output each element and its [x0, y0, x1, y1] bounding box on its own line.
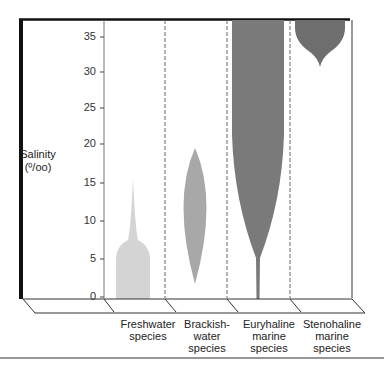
tick-0: 0: [72, 290, 96, 302]
category-euryhaline: Euryhalinemarinespecies: [238, 318, 300, 354]
category-brackish: Brackish-waterspecies: [176, 318, 238, 354]
y-ticks: [100, 37, 104, 297]
salinity-chart: [0, 0, 384, 369]
tick-10: 10: [72, 214, 96, 226]
tick-35: 35: [72, 30, 96, 42]
tick-5: 5: [72, 252, 96, 264]
tick-15: 15: [72, 176, 96, 188]
tick-30: 30: [72, 65, 96, 77]
tick-25: 25: [72, 101, 96, 113]
brackish-shape: [184, 148, 207, 284]
freshwater-shape: [116, 178, 150, 299]
euryhaline-shape: [232, 20, 284, 299]
category-freshwater: Freshwaterspecies: [113, 318, 183, 342]
category-stenohaline: Stenohalinemarinespecies: [300, 318, 364, 354]
stenohaline-shape: [295, 20, 345, 67]
tick-20: 20: [72, 137, 96, 149]
y-axis-label: Salinity (⁰/oo): [16, 148, 60, 174]
